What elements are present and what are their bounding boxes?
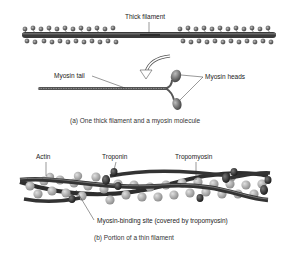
- myosin-tail-leader: [92, 76, 125, 88]
- label-myosin-tail: Myosin tail: [54, 72, 85, 79]
- label-tropomyosin: Tropomyosin: [175, 153, 212, 160]
- thin-filament: [20, 168, 272, 205]
- caption-panel-b: (b) Portion of a thin filament: [94, 234, 174, 241]
- caption-panel-a: (a) One thick filament and a myosin mole…: [70, 117, 200, 124]
- myosin-heads-leader-1: [181, 75, 203, 77]
- curved-arrow-icon: [140, 56, 170, 79]
- label-myosin-binding-site: Myosin-binding site (covered by tropomyo…: [97, 217, 228, 224]
- myosin-heads-leader-2: [180, 77, 203, 100]
- label-troponin: Troponin: [102, 153, 127, 160]
- label-myosin-heads: Myosin heads: [205, 73, 245, 80]
- label-actin: Actin: [36, 153, 50, 160]
- label-thick-filament: Thick filament: [125, 13, 165, 20]
